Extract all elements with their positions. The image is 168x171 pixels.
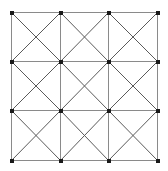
- lattice-node-marker: [107, 60, 111, 64]
- lattice-node-marker: [156, 109, 160, 113]
- lattice-node-marker: [10, 109, 14, 113]
- lattice-node-marker: [59, 11, 63, 15]
- lattice-node-marker: [59, 109, 63, 113]
- lattice-node-marker: [10, 60, 14, 64]
- lattice-node-marker: [107, 159, 111, 163]
- lattice-node-marker: [156, 60, 160, 64]
- lattice-node-marker: [59, 60, 63, 64]
- lattice-node-marker: [10, 159, 14, 163]
- lattice-node-marker: [156, 159, 160, 163]
- lattice-node-marker: [10, 11, 14, 15]
- lattice-node-marker: [59, 159, 63, 163]
- lattice-node-marker: [107, 109, 111, 113]
- mesh-diagram-canvas: [0, 0, 168, 171]
- lattice-node-marker: [156, 11, 160, 15]
- mesh-figure: [0, 0, 168, 171]
- lattice-node-marker: [107, 11, 111, 15]
- cell-diagonals-group: [12, 13, 158, 161]
